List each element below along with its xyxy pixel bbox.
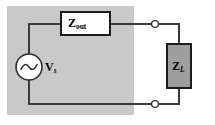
terminal-node-bottom — [152, 101, 159, 108]
vs-label: Vs — [45, 61, 57, 74]
zl-subscript: L — [180, 65, 185, 74]
zout-label: Zout — [68, 17, 86, 30]
zl-symbol: Z — [172, 59, 180, 73]
vs-subscript: s — [54, 66, 57, 75]
zout-symbol: Z — [68, 16, 76, 30]
circuit-diagram: Zout ZL Vs — [0, 0, 215, 125]
wire-source-to-zout — [29, 24, 61, 54]
zl-label: ZL — [172, 60, 185, 73]
zout-subscript: out — [76, 22, 86, 31]
terminal-node-top — [152, 21, 159, 28]
vs-symbol: V — [45, 60, 54, 74]
